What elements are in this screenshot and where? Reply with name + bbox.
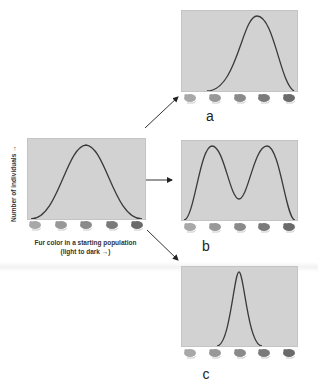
panel-b-plot — [181, 140, 298, 221]
mouse-icon — [256, 93, 272, 104]
mouse-icon — [256, 222, 272, 233]
mouse-icon — [256, 348, 272, 359]
mouse-icon — [78, 220, 94, 231]
panel-c-plot — [181, 266, 298, 347]
mouse-icon — [281, 93, 297, 104]
arrow-to-a — [145, 97, 178, 128]
mouse-icon — [281, 222, 297, 233]
mouse-icon — [207, 93, 223, 104]
mouse-icon — [232, 348, 248, 359]
stabilizing-curve — [182, 267, 297, 346]
mouse-icon — [207, 222, 223, 233]
y-axis-label: Number of individuals → — [10, 145, 17, 222]
panel-c-fur-scale — [182, 348, 297, 359]
panel-b-label: b — [196, 238, 216, 254]
mouse-icon — [182, 348, 198, 359]
mouse-icon — [281, 348, 297, 359]
mouse-icon — [182, 93, 198, 104]
panel-a-label: a — [200, 108, 220, 124]
directional-curve — [182, 11, 297, 91]
mouse-icon — [232, 93, 248, 104]
mouse-icon — [104, 220, 120, 231]
x-axis-label: Fur color in a starting population (ligh… — [18, 238, 153, 256]
panel-b-fur-scale — [182, 222, 297, 233]
starting-distribution-plot — [27, 138, 146, 220]
panel-a-plot — [181, 10, 298, 92]
bimodal-curve — [182, 141, 297, 220]
mouse-icon — [129, 220, 145, 231]
mouse-icon — [53, 220, 69, 231]
mouse-icon — [232, 222, 248, 233]
normal-curve — [28, 139, 145, 219]
panel-c-label: c — [196, 366, 216, 382]
fur-color-scale — [27, 220, 145, 231]
panel-a-fur-scale — [182, 93, 297, 104]
mouse-icon — [182, 222, 198, 233]
mouse-icon — [27, 220, 43, 231]
mouse-icon — [207, 348, 223, 359]
